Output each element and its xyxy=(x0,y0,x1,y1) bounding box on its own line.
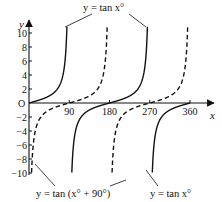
axes xyxy=(29,20,214,175)
x-tick-label: 180 xyxy=(102,106,117,117)
origin-label: O xyxy=(18,98,25,109)
x-axis-label: x xyxy=(209,109,215,121)
y-tick-label: 8 xyxy=(22,42,27,53)
y-tick-label: −10 xyxy=(11,168,27,179)
y-tick-label: 4 xyxy=(22,70,27,81)
curves xyxy=(29,27,190,173)
y-tick-label: −8 xyxy=(16,154,27,165)
y-axis-label: y xyxy=(18,18,24,30)
x-tick-label: 360 xyxy=(183,106,198,117)
y-tick-label: −2 xyxy=(16,112,27,123)
y-tick-label: −6 xyxy=(16,140,27,151)
solid-curve-branch xyxy=(72,27,148,173)
x-tick-label: 270 xyxy=(142,106,157,117)
y-tick-label: 6 xyxy=(22,56,27,67)
top-equation-label: y = tan x° xyxy=(83,2,124,13)
solid-curve-branch xyxy=(29,27,67,103)
bottom-right-equation-label: y = tan x° xyxy=(150,188,191,199)
y-tick-label: 2 xyxy=(22,84,27,95)
dashed-curve-branch xyxy=(32,27,108,173)
leader-lines xyxy=(35,14,158,186)
dashed-curve-branch xyxy=(112,27,188,173)
y-tick-label: −4 xyxy=(16,126,27,137)
tangent-graph: 90180270360108642−2−4−6−8−10 x y O y = t… xyxy=(0,0,222,202)
x-tick-label: 90 xyxy=(64,106,74,117)
bottom-left-equation-label: y = tan (x° + 90°) xyxy=(36,188,111,200)
